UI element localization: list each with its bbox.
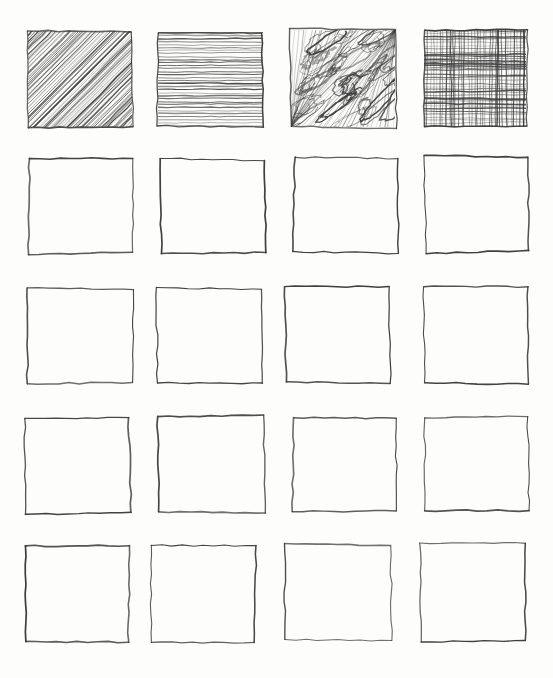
square-border bbox=[160, 158, 266, 254]
sketch-square-r3c2 bbox=[155, 287, 262, 384]
square-border bbox=[150, 545, 256, 643]
square-border bbox=[27, 288, 134, 385]
sketch-square-r2c1 bbox=[27, 157, 133, 254]
square-border bbox=[423, 286, 529, 384]
square-border bbox=[293, 157, 399, 254]
square-border bbox=[28, 158, 134, 255]
sketch-sheet bbox=[0, 0, 553, 678]
square-border bbox=[24, 417, 131, 514]
square-border bbox=[424, 416, 530, 511]
fill-texture-cross-hatch bbox=[423, 29, 527, 128]
sketch-square-r3c4 bbox=[424, 286, 529, 384]
sketch-square-r4c1 bbox=[23, 416, 131, 514]
square-border bbox=[284, 544, 392, 642]
square-border bbox=[156, 287, 263, 383]
sketch-square-r4c2 bbox=[158, 415, 265, 513]
sketch-square-r5c3 bbox=[285, 544, 392, 642]
square-border bbox=[420, 543, 526, 643]
sketch-square-r2c2 bbox=[160, 158, 266, 254]
sketch-square-r1c4 bbox=[423, 29, 527, 128]
square-border bbox=[424, 155, 529, 253]
sketch-square-r5c2 bbox=[151, 544, 257, 642]
square-border bbox=[157, 415, 266, 513]
square-border bbox=[284, 286, 391, 384]
sketch-square-r3c3 bbox=[285, 287, 391, 384]
square-border bbox=[292, 417, 397, 512]
sketch-square-r1c2 bbox=[157, 31, 264, 128]
sketch-square-r1c3 bbox=[290, 29, 396, 128]
fill-texture-diagonal-hatch bbox=[27, 30, 133, 128]
fill-texture-scribble bbox=[286, 13, 419, 132]
sketch-square-r5c1 bbox=[25, 545, 131, 644]
sketch-square-r3c1 bbox=[26, 288, 133, 384]
sketch-square-r5c4 bbox=[419, 543, 527, 643]
sketch-square-r2c3 bbox=[293, 157, 399, 253]
sketch-square-r2c4 bbox=[424, 156, 530, 253]
sketch-square-r4c3 bbox=[292, 416, 398, 513]
fill-texture-horizontal-lines bbox=[159, 32, 263, 126]
sketch-square-r1c1 bbox=[27, 30, 133, 128]
sketch-square-r4c4 bbox=[423, 416, 529, 513]
square-border bbox=[25, 545, 130, 643]
